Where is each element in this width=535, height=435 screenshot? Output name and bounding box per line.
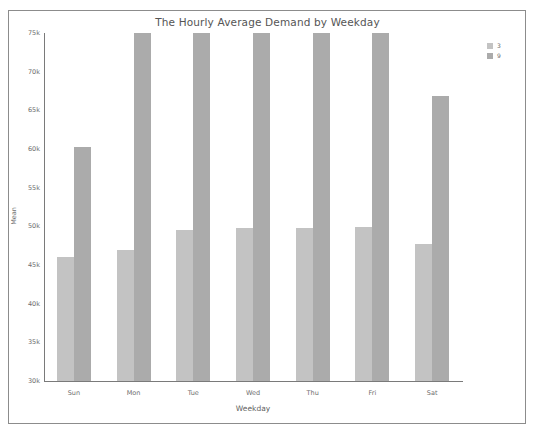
x-tick-label: Sat — [427, 389, 438, 397]
y-tick-label: 40k — [28, 300, 40, 308]
legend-label: 9 — [497, 52, 501, 59]
y-tick-label: 75k — [28, 29, 40, 37]
legend-label: 3 — [497, 42, 501, 49]
bar[interactable] — [355, 227, 372, 381]
chart-title: The Hourly Average Demand by Weekday — [0, 16, 535, 28]
y-tick-label: 45k — [28, 261, 40, 269]
y-tick-label: 60k — [28, 145, 40, 153]
y-axis-label: Mean — [10, 207, 18, 225]
bar-group — [117, 33, 151, 381]
legend-swatch-icon — [487, 43, 493, 49]
x-tick-label: Tue — [188, 389, 199, 397]
x-tick-label: Mon — [127, 389, 141, 397]
y-tick-label: 50k — [28, 222, 40, 230]
bar[interactable] — [372, 33, 389, 381]
x-tick-label: Wed — [246, 389, 260, 397]
bar[interactable] — [236, 228, 253, 381]
bar[interactable] — [296, 228, 313, 381]
plot-area — [44, 33, 462, 381]
bar-group — [355, 33, 389, 381]
legend-item[interactable]: 9 — [487, 52, 501, 59]
x-tick-label: Sun — [68, 389, 80, 397]
bar-group — [296, 33, 330, 381]
bar[interactable] — [432, 96, 449, 381]
bar-group — [57, 33, 91, 381]
bar[interactable] — [57, 257, 74, 382]
bar[interactable] — [134, 33, 151, 381]
bar[interactable] — [193, 33, 210, 381]
bar-group — [176, 33, 210, 381]
y-tick-label: 65k — [28, 106, 40, 114]
legend-item[interactable]: 3 — [487, 42, 501, 49]
x-tick-label: Thu — [307, 389, 319, 397]
bar[interactable] — [253, 33, 270, 381]
y-tick-label: 30k — [28, 377, 40, 385]
x-tick-label: Fri — [369, 389, 377, 397]
x-axis-label: Weekday — [44, 404, 462, 413]
bar[interactable] — [117, 250, 134, 381]
legend-swatch-icon — [487, 53, 493, 59]
bar[interactable] — [415, 244, 432, 381]
bar-group — [415, 33, 449, 381]
y-axis-tick-labels: 30k35k40k45k50k55k60k65k70k75k — [0, 0, 40, 435]
bar[interactable] — [313, 33, 330, 381]
bar[interactable] — [176, 230, 193, 381]
x-axis-line — [44, 381, 463, 382]
legend: 39 — [487, 42, 501, 59]
bar[interactable] — [74, 147, 91, 381]
figure-canvas: The Hourly Average Demand by Weekday 30k… — [0, 0, 535, 435]
y-tick-label: 35k — [28, 338, 40, 346]
y-tick-label: 70k — [28, 68, 40, 76]
y-tick-label: 55k — [28, 184, 40, 192]
bar-group — [236, 33, 270, 381]
